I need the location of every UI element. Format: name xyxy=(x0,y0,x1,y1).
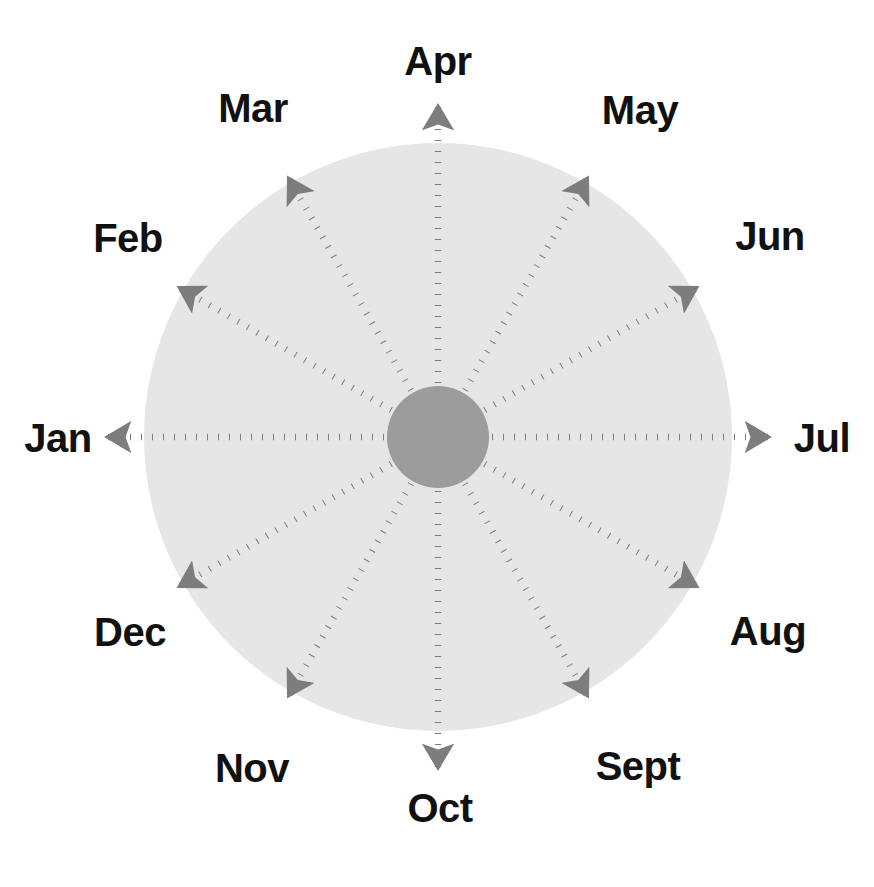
month-label-may: May xyxy=(602,88,680,132)
month-label-nov: Nov xyxy=(215,746,290,790)
month-label-sept: Sept xyxy=(596,744,681,788)
wheel-canvas: AprMayJunJulAugSeptOctNovDecJanFebMar xyxy=(0,0,874,887)
month-label-aug: Aug xyxy=(730,609,806,653)
month-label-apr: Apr xyxy=(404,39,471,83)
month-label-feb: Feb xyxy=(93,216,163,260)
month-label-mar: Mar xyxy=(218,86,288,130)
month-label-jan: Jan xyxy=(24,416,91,460)
month-label-dec: Dec xyxy=(94,610,166,654)
cycle-wheel-diagram: AprMayJunJulAugSeptOctNovDecJanFebMar xyxy=(0,0,874,887)
month-label-oct: Oct xyxy=(407,786,472,830)
month-label-jun: Jun xyxy=(735,214,805,258)
month-label-jul: Jul xyxy=(794,416,850,460)
inner-hub-circle xyxy=(387,386,489,488)
